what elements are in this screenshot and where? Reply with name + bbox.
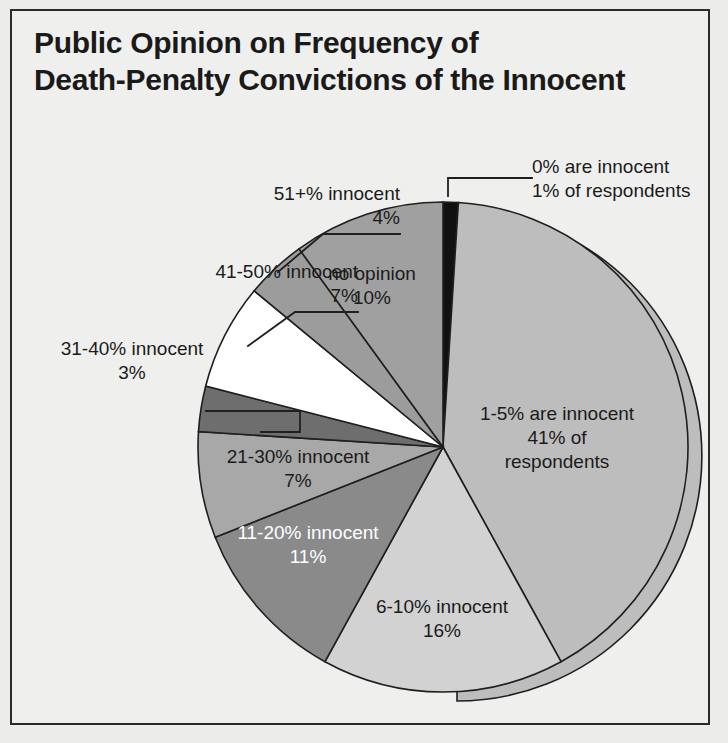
label-no-opinion: no opinion 10% <box>292 262 452 310</box>
label-31-40-line-1: 31-40% innocent <box>61 338 204 359</box>
label-21-30: 21-30% innocent 7% <box>198 445 398 493</box>
leader-line-0-percent <box>448 178 532 196</box>
label-1-5: 1-5% are innocent 41% of respondents <box>457 402 657 474</box>
label-1-5-line-1: 1-5% are innocent <box>480 403 634 424</box>
label-31-40: 31-40% innocent 3% <box>22 337 242 385</box>
label-0-percent-line-2: 1% of respondents <box>532 179 690 203</box>
label-0-percent-line-1: 0% are innocent <box>532 156 669 177</box>
label-6-10-line-2: 16% <box>342 619 542 643</box>
label-51-plus-line-2: 4% <box>90 206 400 230</box>
chart-figure: Public Opinion on Frequency of Death-Pen… <box>0 0 728 743</box>
label-11-20-line-1: 11-20% innocent <box>237 522 378 543</box>
label-21-30-line-1: 21-30% innocent <box>227 446 370 467</box>
label-51-plus-line-1: 51+% innocent <box>274 183 400 204</box>
label-0-percent: 0% are innocent 1% of respondents <box>532 155 690 203</box>
label-6-10: 6-10% innocent 16% <box>342 595 542 643</box>
label-31-40-line-2: 3% <box>22 361 242 385</box>
label-11-20: 11-20% innocent 11% <box>208 521 408 569</box>
label-1-5-line-3: respondents <box>457 450 657 474</box>
label-11-20-line-2: 11% <box>208 545 408 569</box>
label-no-opinion-line-2: 10% <box>292 286 452 310</box>
label-1-5-line-2: 41% of <box>457 426 657 450</box>
label-21-30-line-2: 7% <box>198 469 398 493</box>
label-6-10-line-1: 6-10% innocent <box>376 596 508 617</box>
label-51-plus: 51+% innocent 4% <box>90 182 400 230</box>
label-no-opinion-line-1: no opinion <box>328 263 416 284</box>
